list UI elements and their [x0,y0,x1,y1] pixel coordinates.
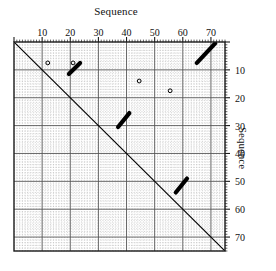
data-series-layer [14,42,225,251]
dotplot-figure: Sequence Sequence 10203040506070 1020304… [0,0,276,271]
plot-canvas [0,0,276,271]
axis-ticks [14,37,230,251]
